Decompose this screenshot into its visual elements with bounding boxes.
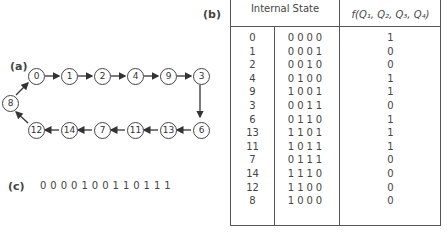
- cell-bits: 0010: [274, 59, 339, 70]
- cell-bits: 0100: [274, 73, 339, 84]
- state-node: 12: [28, 122, 45, 139]
- state-node: 2: [94, 68, 111, 85]
- cell-f: 1: [339, 114, 442, 125]
- table-row: 1411100: [231, 168, 440, 182]
- cell-bits: 1110: [274, 168, 339, 179]
- state-node: 13: [160, 122, 177, 139]
- cell-state: 7: [231, 154, 274, 165]
- cell-bits: 1101: [274, 127, 339, 138]
- cell-bits: 0110: [274, 114, 339, 125]
- cell-bits: 0001: [274, 46, 339, 57]
- cell-bits: 1000: [274, 195, 339, 206]
- table-row: 810000: [231, 195, 440, 209]
- cell-f: 1: [339, 141, 442, 152]
- cell-state: 0: [231, 32, 274, 43]
- state-diagram: [0, 0, 230, 180]
- cell-state: 1: [231, 46, 274, 57]
- cell-f: 0: [339, 168, 442, 179]
- table-row: 200100: [231, 59, 440, 73]
- cell-state: 12: [231, 182, 274, 193]
- table-body: 0000011000102001004010019100113001106011…: [231, 32, 440, 209]
- table-row: 701110: [231, 154, 440, 168]
- header-internal-state: Internal State: [231, 3, 339, 14]
- table-row: 1211000: [231, 182, 440, 196]
- cell-state: 11: [231, 141, 274, 152]
- cell-state: 13: [231, 127, 274, 138]
- label-c: (c): [8, 180, 25, 193]
- state-table: Internal State f(Q₁, Q₂, Q₃, Q₄) 0000011…: [230, 0, 441, 226]
- table-row: 000001: [231, 32, 440, 46]
- cell-state: 6: [231, 114, 274, 125]
- cell-bits: 1100: [274, 182, 339, 193]
- cell-state: 4: [231, 73, 274, 84]
- cell-state: 9: [231, 86, 274, 97]
- cell-state: 2: [231, 59, 274, 70]
- table-row: 401001: [231, 73, 440, 87]
- cell-bits: 1001: [274, 86, 339, 97]
- table-row: 1311011: [231, 127, 440, 141]
- cell-f: 1: [339, 32, 442, 43]
- state-node: 6: [193, 122, 210, 139]
- output-sequence: 0000100110111: [40, 180, 175, 191]
- cell-f: 0: [339, 59, 442, 70]
- header-divider: [231, 26, 440, 27]
- table-row: 1110111: [231, 141, 440, 155]
- state-node: 1: [61, 68, 78, 85]
- cell-f: 0: [339, 154, 442, 165]
- cell-f: 1: [339, 86, 442, 97]
- cell-f: 0: [339, 195, 442, 206]
- cell-state: 14: [231, 168, 274, 179]
- cell-bits: 1011: [274, 141, 339, 152]
- state-node: 0: [28, 68, 45, 85]
- table-row: 100010: [231, 46, 440, 60]
- state-node: 14: [61, 122, 78, 139]
- cell-state: 8: [231, 195, 274, 206]
- table-row: 601101: [231, 114, 440, 128]
- cell-bits: 0000: [274, 32, 339, 43]
- header-output: f(Q₁, Q₂, Q₃, Q₄): [339, 9, 442, 20]
- cell-f: 0: [339, 182, 442, 193]
- cell-bits: 0011: [274, 100, 339, 111]
- cell-f: 1: [339, 127, 442, 138]
- cell-state: 3: [231, 100, 274, 111]
- table-row: 910011: [231, 86, 440, 100]
- table-row: 300110: [231, 100, 440, 114]
- cell-f: 0: [339, 100, 442, 111]
- cell-f: 0: [339, 46, 442, 57]
- state-node: 8: [2, 95, 19, 112]
- state-node: 4: [127, 68, 144, 85]
- cell-bits: 0111: [274, 154, 339, 165]
- state-node: 7: [94, 122, 111, 139]
- cell-f: 1: [339, 73, 442, 84]
- state-node: 3: [193, 68, 210, 85]
- state-node: 11: [127, 122, 144, 139]
- state-node: 9: [160, 68, 177, 85]
